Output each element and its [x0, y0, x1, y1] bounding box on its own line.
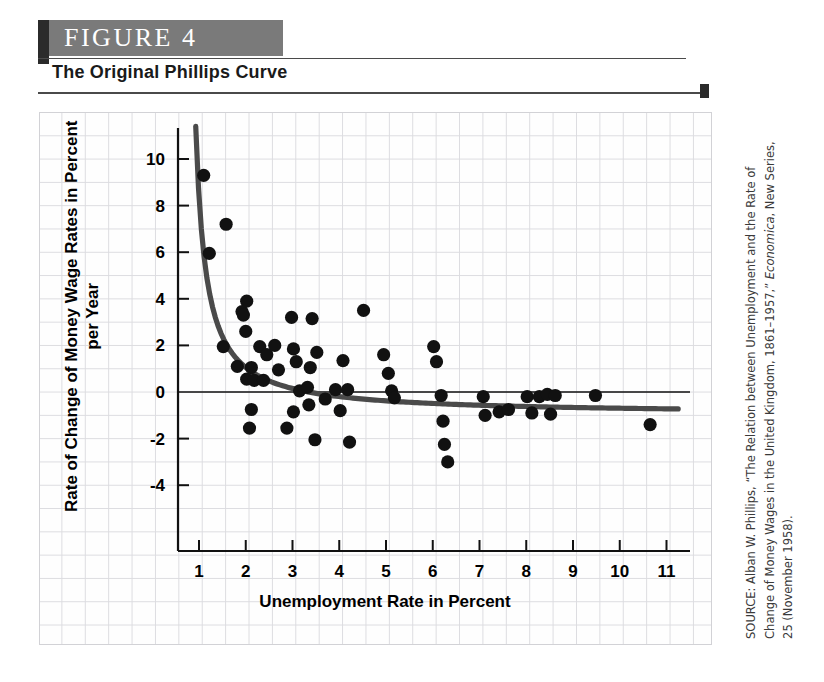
scatter-point [245, 403, 258, 416]
scatter-point [502, 403, 515, 416]
scatter-point [302, 398, 315, 411]
x-tick-label-3: 3 [288, 562, 297, 581]
y-tick-label--2: -2 [150, 430, 165, 449]
scatter-point [272, 363, 285, 376]
scatter-point [245, 361, 258, 374]
scatter-point [382, 367, 395, 380]
scatter-point [430, 355, 443, 368]
x-tick-label-5: 5 [381, 562, 390, 581]
tick-label-layer: -4-202468101234567891011 [146, 150, 675, 581]
y-tick-label-0: 0 [156, 383, 165, 402]
scatter-point [257, 374, 270, 387]
scatter-point [240, 295, 253, 308]
x-axis-title: Unemployment Rate in Percent [150, 592, 620, 612]
x-tick-label-1: 1 [194, 562, 203, 581]
scatter-point [310, 346, 323, 359]
scatter-point [441, 455, 454, 468]
scatter-point [427, 340, 440, 353]
scatter-point [544, 408, 557, 421]
scatter-point [589, 389, 602, 402]
source-citation: SOURCE: Alban W. Phillips, “The Relation… [742, 127, 798, 639]
scatter-point [308, 433, 321, 446]
scatter-points-layer [197, 169, 657, 469]
scatter-point [304, 361, 317, 374]
scatter-point [549, 389, 562, 402]
x-tick-label-8: 8 [522, 562, 531, 581]
source-journal-name: Economica [763, 216, 777, 279]
y-tick-label-4: 4 [156, 290, 166, 309]
x-tick-label-9: 9 [568, 562, 577, 581]
scatter-point [287, 342, 300, 355]
y-tick-label-10: 10 [146, 150, 165, 169]
scatter-point [477, 390, 490, 403]
scatter-point [336, 354, 349, 367]
scatter-point [341, 383, 354, 396]
scatter-point [438, 438, 451, 451]
scatter-point [231, 360, 244, 373]
scatter-point [357, 304, 370, 317]
x-tick-label-6: 6 [428, 562, 437, 581]
y-tick-label-8: 8 [156, 197, 165, 216]
y-tick-label-2: 2 [156, 336, 165, 355]
scatter-point [377, 348, 390, 361]
scatter-point [239, 325, 252, 338]
y-tick-label-6: 6 [156, 243, 165, 262]
scatter-point [243, 422, 256, 435]
scatter-point [287, 405, 300, 418]
x-tick-label-4: 4 [335, 562, 345, 581]
x-tick-label-2: 2 [241, 562, 250, 581]
scatter-point [268, 339, 281, 352]
scatter-point [343, 436, 356, 449]
scatter-point [479, 409, 492, 422]
x-tick-label-10: 10 [610, 562, 629, 581]
scatter-point [388, 391, 401, 404]
scatter-point [319, 392, 332, 405]
y-tick-label--4: -4 [150, 476, 166, 495]
x-tick-label-7: 7 [475, 562, 484, 581]
scatter-point [329, 383, 342, 396]
scatter-point [280, 422, 293, 435]
scatter-point [334, 404, 347, 417]
scatter-point [237, 309, 250, 322]
x-tick-label-11: 11 [658, 562, 676, 581]
scatter-point [290, 355, 303, 368]
scatter-point [306, 312, 319, 325]
scatter-point [525, 406, 538, 419]
scatter-point [436, 415, 449, 428]
scatter-point [521, 390, 534, 403]
scatter-point [301, 381, 314, 394]
scatter-point [644, 418, 657, 431]
scatter-point [220, 218, 233, 231]
axis-layer [178, 128, 690, 551]
scatter-point [197, 169, 210, 182]
phillips-curve-chart: -4-202468101234567891011 [0, 0, 824, 682]
scatter-point [217, 340, 230, 353]
scatter-point [203, 247, 216, 260]
scatter-point [285, 311, 298, 324]
scatter-point [435, 389, 448, 402]
y-axis-title: Rate of Change of Money Wage Rates in Pe… [61, 116, 104, 516]
